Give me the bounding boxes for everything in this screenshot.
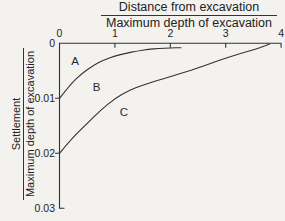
zone-label-C: C (117, 105, 131, 119)
y-tick-label: 0.02 (18, 147, 55, 159)
y-tick-label: 0.03 (18, 202, 55, 214)
x-tick-label: 2 (162, 27, 178, 39)
zone-label-B: B (90, 80, 104, 94)
plot-area (0, 0, 285, 221)
settlement-chart-figure: Distance from excavation Maximum depth o… (0, 0, 285, 221)
y-tick-label: 0 (18, 37, 55, 49)
x-tick-label: 4 (273, 27, 285, 39)
x-tick-label: 3 (218, 27, 234, 39)
curve-zone-boundary-B-C (60, 44, 271, 154)
zone-label-A: A (68, 54, 82, 68)
x-tick-label: 1 (107, 27, 123, 39)
y-tick-label: 0.01 (18, 92, 55, 104)
